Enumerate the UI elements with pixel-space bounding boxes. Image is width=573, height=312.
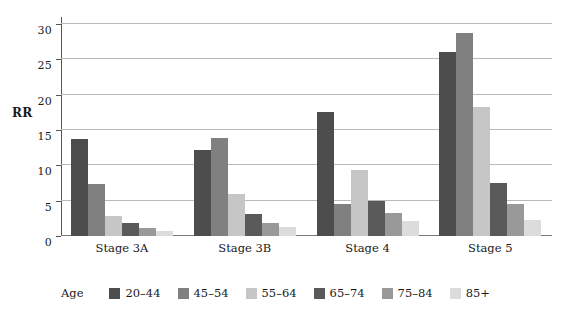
legend-item[interactable]: 45–54	[178, 286, 229, 300]
bar	[139, 228, 156, 236]
bar	[402, 221, 419, 236]
legend-swatch	[450, 288, 461, 299]
bar	[105, 216, 122, 236]
bar	[194, 150, 211, 236]
bar	[334, 204, 351, 237]
bar	[473, 107, 490, 236]
legend-swatch	[314, 288, 325, 299]
bar-group	[194, 24, 296, 236]
plot-area	[61, 24, 552, 236]
y-axis-tick-marks	[0, 24, 62, 236]
bar	[490, 183, 507, 236]
x-axis-category-label: Stage 3B	[218, 241, 271, 255]
bar	[71, 139, 88, 236]
bar	[228, 194, 245, 236]
bar-group	[439, 24, 541, 236]
legend-swatch	[382, 288, 393, 299]
bars-layer	[61, 24, 552, 236]
legend-label: 75–84	[398, 286, 433, 300]
bar	[385, 213, 402, 236]
x-axis-category-labels: Stage 3AStage 3BStage 4Stage 5	[61, 241, 552, 261]
legend-item[interactable]: 55–64	[246, 286, 297, 300]
bar	[122, 223, 139, 236]
bar	[507, 204, 524, 236]
bar	[211, 138, 228, 236]
bar	[439, 52, 456, 236]
legend-swatch	[109, 288, 120, 299]
legend-items: 20–4445–5455–6465–7475–8485+	[109, 286, 506, 300]
legend-label: 20–44	[125, 286, 160, 300]
legend-label: 65–74	[330, 286, 365, 300]
legend-swatch	[178, 288, 189, 299]
bar	[368, 201, 385, 236]
bar	[456, 33, 473, 236]
bar	[88, 184, 105, 236]
bar	[351, 170, 368, 236]
legend-label: 85+	[466, 286, 490, 300]
legend: Age 20–4445–5455–6465–7475–8485+	[61, 282, 561, 304]
legend-title: Age	[61, 286, 83, 300]
bar-group	[317, 24, 419, 236]
x-axis-category-label: Stage 5	[468, 241, 513, 255]
legend-item[interactable]: 65–74	[314, 286, 365, 300]
legend-label: 45–54	[194, 286, 229, 300]
bar	[156, 231, 173, 236]
bar	[262, 223, 279, 236]
legend-label: 55–64	[262, 286, 297, 300]
bar	[245, 214, 262, 236]
legend-item[interactable]: 20–44	[109, 286, 160, 300]
y-axis-tick-mark	[56, 236, 61, 237]
legend-swatch	[246, 288, 257, 299]
bar	[279, 227, 296, 236]
bar	[317, 112, 334, 236]
legend-item[interactable]: 75–84	[382, 286, 433, 300]
x-axis-category-label: Stage 4	[345, 241, 390, 255]
bar-group	[71, 24, 173, 236]
x-axis-category-label: Stage 3A	[96, 241, 149, 255]
bar	[524, 220, 541, 236]
bar-chart: RR 051015202530 Stage 3AStage 3BStage 4S…	[0, 0, 573, 312]
legend-item[interactable]: 85+	[450, 286, 490, 300]
